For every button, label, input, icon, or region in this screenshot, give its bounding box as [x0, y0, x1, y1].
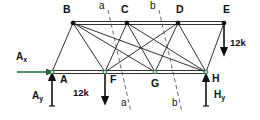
joint-F [103, 70, 107, 74]
load-label-E: 12k [230, 38, 246, 48]
section-label-b-top: b [150, 1, 156, 11]
section-b [159, 10, 182, 112]
member-GH [155, 71, 206, 74]
reaction-label-Ay: Ay [32, 91, 43, 102]
joint-E [222, 21, 226, 25]
node-label-D: D [176, 4, 184, 15]
section-label-a-bottom: a [121, 98, 127, 108]
joint-B [71, 21, 75, 25]
node-label-A: A [60, 74, 68, 85]
member-AB [52, 23, 73, 72]
truss-diagram: B C D E A F G H 12k 12k Ax Ay Hy a a b b [0, 0, 260, 120]
member-DH [178, 23, 206, 72]
member-EH [206, 23, 224, 72]
node-label-C: C [121, 4, 129, 15]
reaction-label-Ax: Ax [16, 52, 27, 63]
member-BF [73, 23, 105, 72]
node-label-E: E [223, 4, 230, 15]
member-BC [73, 22, 127, 25]
member-BG [73, 23, 155, 72]
section-label-b-bottom: b [172, 98, 178, 108]
node-label-G: G [151, 78, 159, 89]
member-CD [127, 22, 178, 25]
node-label-F: F [110, 74, 116, 85]
section-label-a-top: a [99, 1, 105, 11]
joint-A [50, 70, 54, 74]
load-label-F: 12k [73, 88, 89, 98]
truss-svg [0, 0, 260, 120]
truss-members [52, 23, 224, 72]
joint-H [204, 70, 208, 74]
joint-C [125, 21, 129, 25]
reaction-subscript-Ay: y [39, 95, 43, 102]
reaction-label-Hy: Hy [214, 90, 225, 101]
joint-D [176, 21, 180, 25]
node-label-B: B [63, 4, 71, 15]
section-a [108, 10, 131, 112]
node-label-H: H [212, 73, 220, 84]
reaction-subscript-Hy: y [221, 94, 225, 101]
joint-G [153, 70, 157, 74]
member-DE [178, 22, 224, 25]
reaction-subscript-Ax: x [23, 56, 27, 63]
section-lines [108, 10, 182, 112]
